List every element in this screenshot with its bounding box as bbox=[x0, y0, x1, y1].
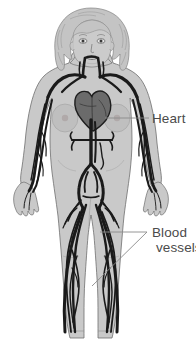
label-heart: Heart bbox=[152, 111, 186, 126]
label-blood-vessels-line2: vessels bbox=[152, 240, 196, 255]
head-group bbox=[55, 8, 129, 70]
label-blood-vessels-line1: Blood bbox=[152, 225, 187, 240]
body-group bbox=[14, 44, 169, 338]
pupil-right bbox=[100, 40, 103, 43]
label-blood-vessels: Blood vessels bbox=[152, 225, 196, 255]
vena-cava bbox=[95, 122, 96, 162]
right-hand bbox=[143, 182, 168, 216]
nipple-left bbox=[62, 115, 68, 121]
pupil-left bbox=[82, 40, 85, 43]
body-silhouette bbox=[21, 50, 162, 338]
anatomy-illustration bbox=[0, 0, 196, 347]
figure-root: Heart Blood vessels bbox=[0, 0, 196, 347]
